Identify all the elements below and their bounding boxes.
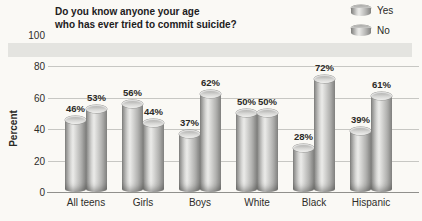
gridline-80 [48,66,419,67]
x-axis-label-white: White [225,197,289,208]
bar-top-yes-boys [179,130,200,138]
y-tick-label-20: 20 [14,156,45,167]
bar-value-label-no-hispanic: 61% [360,79,404,90]
bar-value-label-no-boys: 62% [189,77,233,88]
bar-no-all-teens [86,109,107,192]
y-tick-label-100: 100 [14,30,45,41]
bar-top-no-boys [200,90,221,98]
bar-top-no-white [257,109,278,117]
bar-no-boys [200,94,221,192]
bar-top-no-hispanic [371,92,392,100]
y-tick-label-0: 0 [14,187,45,198]
bar-value-label-no-black: 72% [303,62,347,73]
bar-top-yes-black [293,144,314,152]
bar-value-label-no-girls: 44% [132,106,176,117]
bar-top-no-all-teens [86,105,107,113]
y-tick-label-80: 80 [14,61,45,72]
bar-no-hispanic [371,96,392,192]
x-axis-label-boys: Boys [168,197,232,208]
x-axis-label-hispanic: Hispanic [339,197,403,208]
x-axis-label-girls: Girls [111,197,175,208]
y-tick-label-60: 60 [14,93,45,104]
bar-yes-all-teens [65,120,86,192]
bar-yes-black [293,148,314,192]
bar-yes-hispanic [350,131,371,192]
bar-top-yes-hispanic [350,127,371,135]
bar-top-no-black [314,75,335,83]
bar-value-label-no-white: 50% [246,96,290,107]
bar-no-girls [143,123,164,192]
bar-yes-girls [122,104,143,192]
bar-no-white [257,113,278,192]
x-axis-label-black: Black [282,197,346,208]
bar-yes-boys [179,134,200,192]
bar-top-yes-all-teens [65,116,86,124]
bar-value-label-yes-girls: 56% [111,87,155,98]
x-axis-label-all-teens: All teens [54,197,118,208]
bar-top-yes-white [236,109,257,117]
bar-no-black [314,79,335,192]
chart-page: Do you know anyone your age who has ever… [0,0,422,221]
plot-area: 02040608010046%53%All teens56%44%Girls37… [0,0,422,221]
y-tick-label-40: 40 [14,124,45,135]
bar-top-no-girls [143,119,164,127]
bar-yes-white [236,113,257,192]
x-axis-baseline [47,192,419,193]
